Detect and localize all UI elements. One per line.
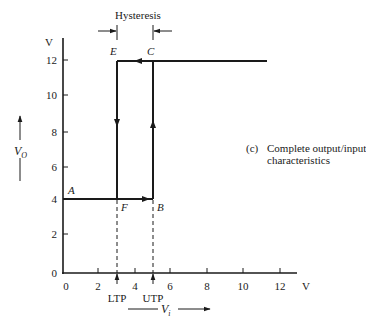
y-tick-labels: 0 2 4 6 8 10 12 [46,54,58,279]
point-a-label: A [67,184,75,196]
arrow-left-icon [134,58,142,64]
hysteresis-curve [63,61,267,199]
vo-label: VO [14,144,27,160]
caption-line-2: characteristics [267,154,330,166]
x-tick-12: 12 [275,280,286,292]
arrow-up-icon [150,120,156,128]
y-tick-8: 8 [52,126,58,138]
y-tick-0: 0 [52,267,58,279]
point-labels: A F B E C [67,45,164,213]
axes [62,38,297,274]
point-c-label: C [147,45,155,57]
y-tick-4: 4 [52,193,58,205]
vi-axis-title: Vi [128,302,210,318]
hysteresis-label: Hysteresis [115,9,161,21]
y-tick-6: 6 [52,161,58,173]
direction-arrows [114,58,156,202]
arrow-down-icon [114,119,120,127]
point-b-label: B [157,201,164,213]
caption-tag: (c) [246,142,259,155]
y-unit-label: V [45,36,53,48]
x-tick-0: 0 [63,280,69,292]
figure-caption: (c) Complete output/input characteristic… [246,142,366,166]
point-f-label: F [120,201,128,213]
x-tick-4: 4 [132,280,138,292]
vo-axis-title: VO [14,116,27,181]
ltp-label: LTP [108,292,127,304]
y-tick-12: 12 [46,54,57,66]
point-e-label: E [109,45,117,57]
x-tick-10: 10 [238,280,250,292]
x-tick-6: 6 [167,280,173,292]
caption-line-1: Complete output/input [267,142,366,154]
vi-label: Vi [161,302,171,318]
arrow-right-icon [142,196,150,202]
y-tick-10: 10 [46,89,58,101]
x-tick-labels: 0 2 4 6 8 10 12 [63,280,285,292]
y-tick-2: 2 [52,228,58,240]
hysteresis-diagram: 0 2 4 6 8 10 12 V 0 2 4 6 8 10 12 V LTP … [0,0,366,324]
x-tick-2: 2 [95,280,101,292]
x-tick-8: 8 [204,280,210,292]
x-unit-label: V [302,280,310,292]
hysteresis-bracket [98,25,172,40]
